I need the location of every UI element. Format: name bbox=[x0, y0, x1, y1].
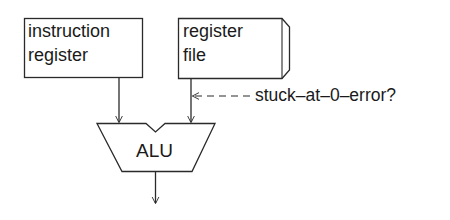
alu-label: ALU bbox=[136, 139, 173, 162]
instruction-register-label-line2: register bbox=[28, 44, 88, 67]
instruction-register-label-line1: instruction bbox=[28, 20, 110, 43]
stuck-at-error-annotation: stuck–at–0–error? bbox=[255, 85, 396, 106]
register-file-label-line1: register bbox=[183, 20, 243, 43]
register-file-label-line2: file bbox=[183, 44, 206, 67]
